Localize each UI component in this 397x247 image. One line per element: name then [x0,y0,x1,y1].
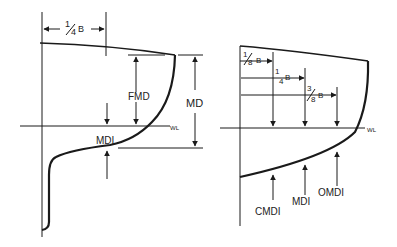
fmd-label: FMD [128,91,150,102]
quarter-beam-den: 4 [279,77,284,86]
three-eighth-beam-num: 3 [307,84,312,93]
left-wl-label: WL [170,125,180,131]
left-labels: 1 4 B FMD MD MDI WL [65,19,203,146]
left-quarter-beam-unit: B [78,24,84,34]
left-mdi-label: MDI [96,135,114,146]
left-quarter-beam-num: 1 [65,19,70,29]
eighth-beam-unit: B [256,56,261,65]
right-labels: 1 8 B 1 4 B 3 8 B WL CMDI MDI OMDI [243,50,377,217]
right-wl-label: WL [367,127,377,133]
left-deck-line [40,43,175,55]
eighth-beam-den: 8 [248,58,253,67]
md-label: MD [186,97,203,109]
right-mdi-label: MDI [292,196,310,207]
quarter-beam-num: 1 [275,67,280,76]
cmdi-label: CMDI [255,206,281,217]
three-eighth-beam-unit: B [318,91,323,100]
hull-section-diagram: 1 4 B FMD MD MDI WL 1 8 B 1 [0,0,397,247]
quarter-beam-unit: B [285,73,290,82]
omdi-label: OMDI [318,187,344,198]
three-eighth-beam-den: 8 [311,95,316,104]
